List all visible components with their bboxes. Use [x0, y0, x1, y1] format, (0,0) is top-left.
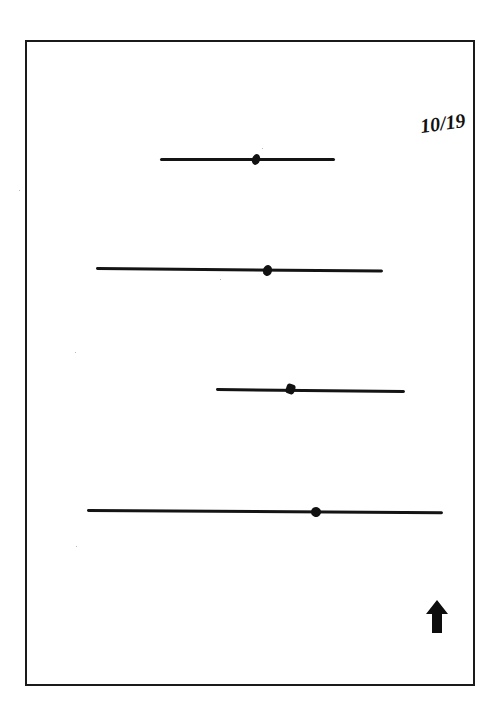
- paper-speck: [220, 279, 221, 280]
- paper-speck: [76, 546, 77, 547]
- paper-speck: [262, 148, 263, 149]
- bisection-line-1: [160, 158, 335, 161]
- paper-speck: [75, 352, 76, 353]
- up-arrow-icon: [425, 599, 449, 635]
- paper-speck: [19, 190, 20, 191]
- test-card-frame: [25, 40, 475, 686]
